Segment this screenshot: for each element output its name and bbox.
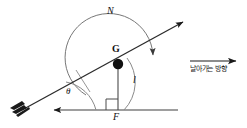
arrow-fletching-icon [10, 101, 30, 117]
force-line [106, 64, 118, 110]
label-angle-theta: θ [66, 87, 70, 96]
label-moment-arm: l [133, 75, 136, 85]
normal-force-arc [65, 14, 153, 95]
label-force: F [113, 112, 119, 122]
label-normal-force: N [107, 6, 114, 16]
center-of-gravity-point [113, 59, 123, 69]
arrow-shaft [22, 22, 183, 110]
diagram-svg [0, 0, 247, 128]
label-flight-direction: 날아가는 방향 [190, 66, 227, 73]
angle-arc [66, 82, 96, 110]
figure-canvas: N G l F θ 날아가는 방향 [0, 0, 247, 128]
label-center-of-gravity: G [112, 44, 120, 54]
